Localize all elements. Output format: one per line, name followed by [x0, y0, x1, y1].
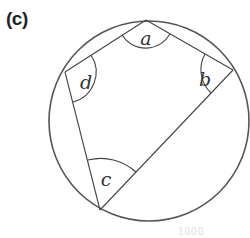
- side-bc: [100, 70, 233, 210]
- angle-label-b: b: [199, 68, 211, 90]
- angle-label-c: c: [101, 168, 112, 190]
- angle-label-a: a: [140, 27, 151, 49]
- angle-label-d: d: [80, 71, 92, 93]
- cyclic-quadrilateral-diagram: a b c d: [0, 0, 250, 238]
- circumcircle: [49, 21, 249, 221]
- angle-arc-c: [88, 158, 136, 172]
- angle-arcs: [73, 34, 211, 172]
- watermark-fragment: 1000: [178, 226, 204, 237]
